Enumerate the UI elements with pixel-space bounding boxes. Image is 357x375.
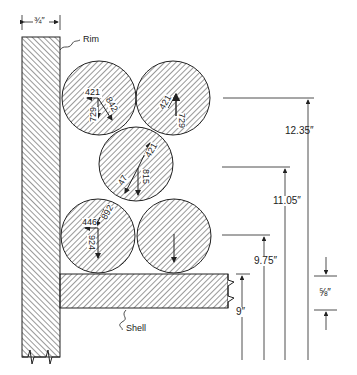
rim: [22, 37, 60, 364]
shell-label: Shell: [126, 324, 146, 333]
force-bottom-left-vertical: 924: [87, 235, 96, 250]
rim-label: Rim: [83, 35, 99, 44]
dimension-12-35-label: 12.35″: [285, 126, 314, 136]
shell-thickness-label: ⅝″: [319, 288, 331, 298]
force-top-right-vertical: 729: [177, 113, 186, 128]
force-top-left-vertical: 729: [89, 107, 98, 122]
bottle-middle: [99, 127, 173, 201]
dimension-9-label: 9″: [236, 307, 245, 317]
dimension-12-35: [223, 98, 314, 360]
shell: [60, 274, 234, 308]
rim-leader: [60, 40, 80, 50]
rim-width-label: ¾″: [34, 16, 45, 25]
dimension-11-05-label: 11.05″: [273, 196, 301, 206]
force-bottom-left-horizontal: 446: [82, 218, 97, 227]
rim-shell-diagram: [0, 0, 357, 375]
dimension-9: [236, 274, 250, 360]
dimension-9-75-label: 9.75″: [254, 256, 277, 266]
force-middle-vertical: 815: [141, 169, 150, 184]
force-top-left-horizontal: 421: [85, 88, 100, 97]
